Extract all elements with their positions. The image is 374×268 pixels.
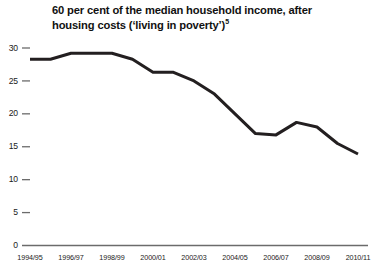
x-tick-label: 1994/95 bbox=[8, 253, 52, 262]
y-tick-label: 10 bbox=[0, 174, 18, 184]
x-tick-label: 2008/09 bbox=[295, 253, 339, 262]
x-tick-label: 2002/03 bbox=[172, 253, 216, 262]
x-tick-label: 2010/11 bbox=[336, 253, 374, 262]
y-tick-label: 30 bbox=[0, 43, 18, 53]
x-tick-label: 2004/05 bbox=[213, 253, 257, 262]
x-tick-label: 2000/01 bbox=[131, 253, 175, 262]
y-tick-label: 25 bbox=[0, 76, 18, 86]
y-tick-label: 5 bbox=[0, 207, 18, 217]
chart-figure: 60 per cent of the median household inco… bbox=[0, 0, 374, 268]
x-tick-label: 2006/07 bbox=[254, 253, 298, 262]
x-tick-label: 1998/99 bbox=[90, 253, 134, 262]
chart-plot-area bbox=[0, 0, 374, 268]
y-tick-label: 15 bbox=[0, 141, 18, 151]
y-axis-ticks bbox=[22, 48, 30, 213]
y-tick-label: 0 bbox=[0, 240, 18, 250]
x-tick-label: 1996/97 bbox=[49, 253, 93, 262]
data-series-line bbox=[30, 53, 358, 154]
y-tick-label: 20 bbox=[0, 108, 18, 118]
